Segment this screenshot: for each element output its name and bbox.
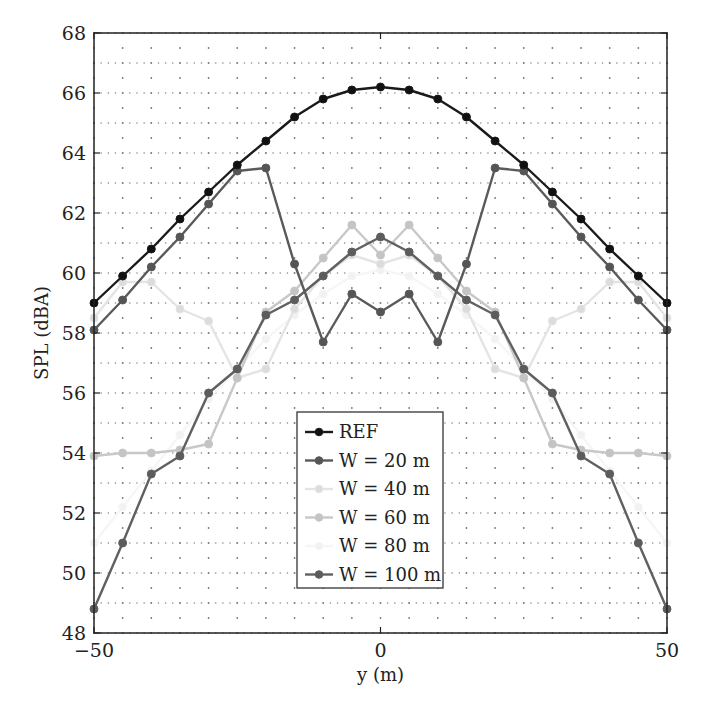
x-tick-label: 0 [374,639,386,661]
y-tick-label: 64 [62,142,86,164]
y-tick-label: 52 [62,502,86,524]
legend: REFW = 20 mW = 40 mW = 60 mW = 80 mW = 1… [297,412,443,588]
y-axis-label: SPL (dBA) [31,286,52,380]
y-tick-label: 56 [62,382,86,404]
y-tick-label: 66 [62,82,86,104]
legend-label: REF [339,421,378,442]
y-tick-label: 58 [62,322,86,344]
spl-line-chart: 4850525456586062646668 −50050 y (m) SPL … [0,0,707,720]
y-tick-label: 68 [62,22,86,44]
x-axis-label: y (m) [356,664,404,685]
y-tick-label: 60 [62,262,86,284]
legend-label: W = 40 m [339,478,430,499]
legend-label: W = 20 m [339,450,430,471]
x-tick-label: −50 [74,639,114,661]
y-tick-label: 50 [62,562,86,584]
y-tick-label: 62 [62,202,86,224]
legend-label: W = 60 m [339,507,430,528]
legend-label: W = 80 m [339,535,430,556]
y-tick-label: 54 [62,442,86,464]
x-tick-label: 50 [655,639,679,661]
legend-label: W = 100 m [339,564,441,585]
